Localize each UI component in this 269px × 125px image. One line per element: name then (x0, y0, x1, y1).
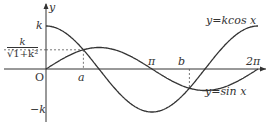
k-label: k (36, 20, 43, 31)
fraction-denominator: √1+k² (7, 47, 38, 59)
two-pi-label: 2π (246, 56, 260, 67)
sin-label: y=sin x (205, 86, 246, 97)
y-axis-arrow-icon (44, 3, 49, 9)
neg-k-label: −k (30, 104, 46, 115)
kcos-label: y=kcos x (206, 15, 256, 26)
origin-label: O (35, 72, 44, 83)
graph: y k k √1+k² O a π b 2π −k y=kcos x y=sin… (0, 0, 269, 125)
pi-label: π (148, 56, 155, 67)
y-axis-label: y (49, 2, 55, 13)
fraction-label: k √1+k² (7, 37, 38, 59)
fraction-numerator: k (7, 37, 38, 47)
a-label: a (78, 72, 85, 83)
b-label: b (178, 56, 185, 67)
x-axis-arrow-icon (260, 67, 266, 72)
